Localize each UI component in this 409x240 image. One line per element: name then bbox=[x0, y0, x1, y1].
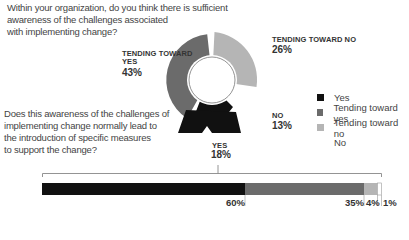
label-text: YES bbox=[122, 58, 192, 66]
legend-label: Tending toward no bbox=[334, 117, 409, 139]
legend-swatch bbox=[317, 109, 323, 116]
bar-segment-tending-yes bbox=[245, 183, 364, 195]
bar-pct-tending-no: 4% bbox=[366, 197, 380, 208]
bar-segment-yes bbox=[42, 183, 245, 195]
label-text: NO bbox=[272, 112, 283, 120]
label-text: TENDING TOWARD NO bbox=[272, 36, 356, 44]
label-tending-yes: TENDING TOWARD YES bbox=[122, 50, 192, 66]
pct-yes: 18% bbox=[211, 149, 231, 160]
pct-tending-no: 26% bbox=[272, 44, 292, 55]
pct-tending-yes: 43% bbox=[122, 67, 142, 78]
label-tending-no: TENDING TOWARD NO bbox=[272, 36, 356, 44]
bar-pct-yes: 60% bbox=[226, 197, 245, 208]
legend-item-tending-no: Tending toward no bbox=[317, 120, 409, 135]
bar-pct-tending-yes: 35% bbox=[345, 197, 364, 208]
bar-segment-no bbox=[378, 183, 382, 195]
bar-bracket bbox=[43, 174, 382, 178]
legend-swatch bbox=[317, 94, 324, 101]
donut-hole bbox=[187, 55, 237, 105]
pct-no: 13% bbox=[272, 120, 292, 131]
legend: Yes Tending toward yes Tending toward no… bbox=[317, 90, 409, 150]
legend-swatch bbox=[317, 139, 324, 146]
legend-swatch bbox=[317, 124, 324, 131]
bar-segment-tending-no bbox=[364, 183, 378, 195]
label-no: NO bbox=[272, 112, 283, 120]
donut-slice-yes-cut bbox=[178, 110, 241, 133]
bar-pct-no: 1% bbox=[383, 197, 397, 208]
legend-label: No bbox=[334, 137, 346, 148]
